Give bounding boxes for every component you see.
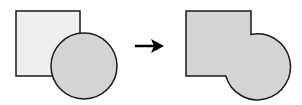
merged-shape xyxy=(186,11,291,100)
circle-shape xyxy=(51,33,117,99)
shape-union-diagram xyxy=(0,0,302,105)
arrow-right-icon xyxy=(135,39,164,53)
